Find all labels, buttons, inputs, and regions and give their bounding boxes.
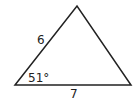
- side-length-left-label: 6: [37, 34, 45, 46]
- triangle-shape: [0, 0, 137, 99]
- angle-measure-label: 51°: [28, 72, 49, 84]
- triangle-figure: 6 51° 7: [0, 0, 137, 99]
- side-length-bottom-label: 7: [70, 88, 78, 99]
